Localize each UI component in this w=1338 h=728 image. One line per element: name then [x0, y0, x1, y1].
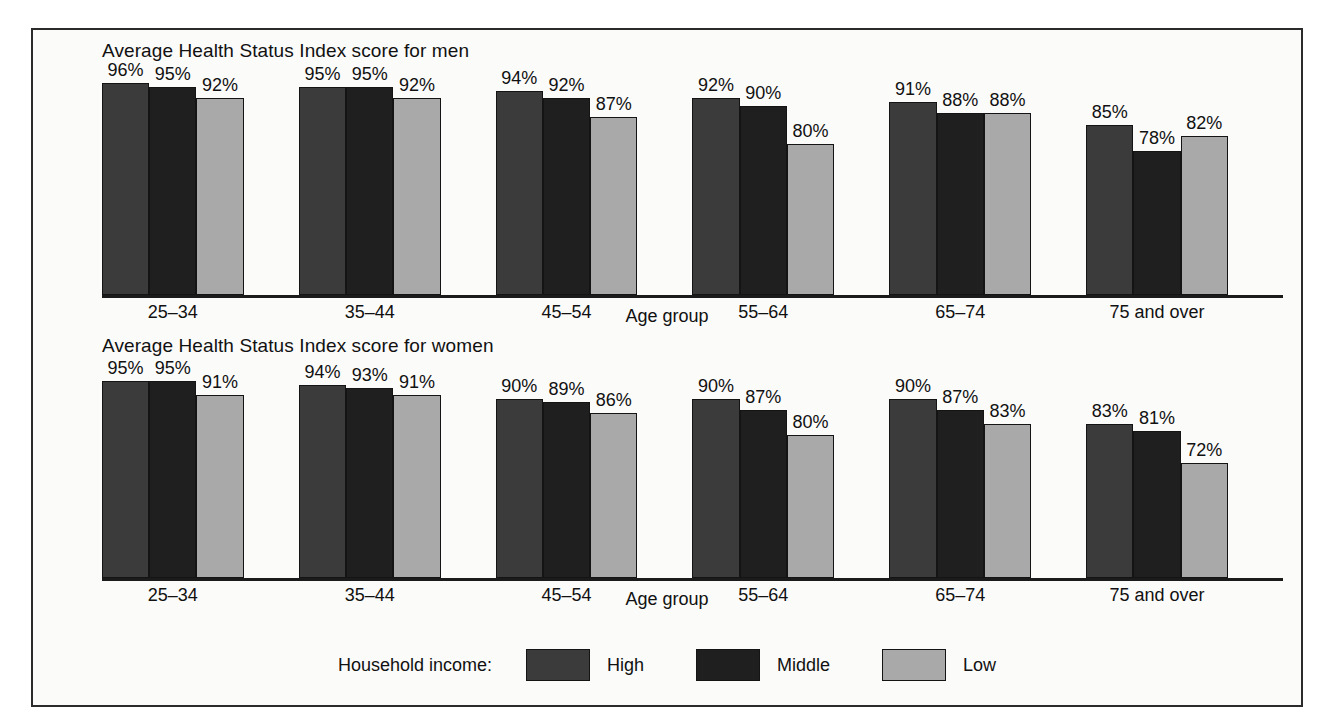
bar-group: 94%92%87%45–54: [496, 68, 693, 295]
bar-low[interactable]: [984, 113, 1031, 295]
bar-value-label: 83%: [989, 401, 1025, 422]
bar-high[interactable]: [496, 399, 543, 578]
bar-high[interactable]: [889, 399, 936, 578]
bar-group: 92%90%80%55–64: [692, 68, 889, 295]
bar-value-label: 90%: [745, 83, 781, 104]
bar-group-bars: 91%88%88%: [889, 68, 1031, 295]
bar-group: 90%87%80%55–64: [692, 363, 889, 578]
bar-value-label: 94%: [304, 362, 340, 383]
axis-title-women: Age group: [33, 589, 1301, 610]
bar-low[interactable]: [590, 117, 637, 295]
bar-middle[interactable]: [543, 98, 590, 295]
bar-value-label: 92%: [399, 75, 435, 96]
bar-group-bars: 96%95%92%: [102, 68, 244, 295]
bar-low[interactable]: [393, 98, 440, 295]
bar-middle[interactable]: [543, 402, 590, 578]
bar-high[interactable]: [102, 381, 149, 578]
bar-high[interactable]: [102, 83, 149, 295]
bar-middle[interactable]: [346, 388, 393, 578]
bar-middle[interactable]: [149, 87, 196, 295]
bar-wrapper: 94%: [299, 363, 346, 578]
bar-low[interactable]: [787, 144, 834, 295]
bar-high[interactable]: [1086, 125, 1133, 295]
bar-wrapper: 92%: [692, 68, 739, 295]
bar-wrapper: 95%: [149, 363, 196, 578]
bar-value-label: 87%: [745, 387, 781, 408]
bar-low[interactable]: [196, 395, 243, 578]
bar-high[interactable]: [692, 399, 739, 578]
bar-high[interactable]: [889, 102, 936, 295]
bar-middle[interactable]: [937, 410, 984, 578]
bar-wrapper: 89%: [543, 363, 590, 578]
bar-value-label: 95%: [155, 358, 191, 379]
legend-swatch-icon: [696, 649, 760, 681]
bar-wrapper: 95%: [346, 68, 393, 295]
bar-group: 85%78%82%75 and over: [1086, 68, 1283, 295]
bar-value-label: 85%: [1092, 102, 1128, 123]
legend-item-low[interactable]: Low: [882, 649, 996, 681]
bar-wrapper: 88%: [984, 68, 1031, 295]
bar-middle[interactable]: [740, 106, 787, 295]
bar-low[interactable]: [590, 413, 637, 578]
legend-item-high[interactable]: High: [526, 649, 644, 681]
bar-wrapper: 92%: [196, 68, 243, 295]
panel-women-title: Average Health Status Index score for wo…: [102, 335, 494, 357]
bar-group-bars: 95%95%91%: [102, 363, 244, 578]
bar-middle[interactable]: [1133, 151, 1180, 295]
bar-low[interactable]: [1181, 463, 1228, 578]
bar-value-label: 80%: [793, 121, 829, 142]
bar-wrapper: 78%: [1133, 68, 1180, 295]
legend-item-label: Middle: [777, 655, 830, 676]
bar-wrapper: 95%: [102, 363, 149, 578]
bar-group: 91%88%88%65–74: [889, 68, 1086, 295]
bar-high[interactable]: [1086, 424, 1133, 578]
bar-low[interactable]: [196, 98, 243, 295]
bar-wrapper: 92%: [393, 68, 440, 295]
bar-low[interactable]: [1181, 136, 1228, 295]
bar-high[interactable]: [496, 91, 543, 295]
bar-wrapper: 94%: [496, 68, 543, 295]
bar-value-label: 87%: [596, 94, 632, 115]
bar-value-label: 95%: [352, 64, 388, 85]
bar-wrapper: 95%: [299, 68, 346, 295]
bar-middle[interactable]: [346, 87, 393, 295]
bar-group: 90%87%83%65–74: [889, 363, 1086, 578]
bar-wrapper: 95%: [149, 68, 196, 295]
axis-baseline-women: [102, 578, 1283, 581]
bar-high[interactable]: [299, 87, 346, 295]
bar-group-bars: 95%95%92%: [299, 68, 441, 295]
bar-value-label: 87%: [942, 387, 978, 408]
bar-wrapper: 86%: [590, 363, 637, 578]
bar-wrapper: 91%: [196, 363, 243, 578]
bar-wrapper: 72%: [1181, 363, 1228, 578]
legend-item-middle[interactable]: Middle: [696, 649, 830, 681]
bar-group-bars: 90%89%86%: [496, 363, 638, 578]
bar-middle[interactable]: [937, 113, 984, 295]
bar-low[interactable]: [393, 395, 440, 578]
bar-wrapper: 96%: [102, 68, 149, 295]
bar-middle[interactable]: [149, 381, 196, 578]
bar-wrapper: 92%: [543, 68, 590, 295]
legend-title: Household income:: [338, 655, 492, 676]
bar-value-label: 96%: [108, 60, 144, 81]
bar-value-label: 90%: [895, 376, 931, 397]
bar-wrapper: 90%: [889, 363, 936, 578]
legend-swatch-icon: [882, 649, 946, 681]
bar-value-label: 81%: [1139, 408, 1175, 429]
bar-middle[interactable]: [740, 410, 787, 578]
bar-low[interactable]: [787, 435, 834, 578]
bar-high[interactable]: [692, 98, 739, 295]
bar-group-bars: 85%78%82%: [1086, 68, 1228, 295]
bar-wrapper: 80%: [787, 68, 834, 295]
bar-wrapper: 90%: [740, 68, 787, 295]
bar-value-label: 91%: [202, 372, 238, 393]
bar-group: 94%93%91%35–44: [299, 363, 496, 578]
bar-high[interactable]: [299, 385, 346, 579]
bar-value-label: 92%: [698, 75, 734, 96]
bar-middle[interactable]: [1133, 431, 1180, 578]
axis-title-men: Age group: [33, 306, 1301, 327]
axis-baseline-men: [102, 295, 1283, 298]
plot-area-men: 96%95%92%25–3495%95%92%35–4494%92%87%45–…: [102, 68, 1283, 298]
bar-low[interactable]: [984, 424, 1031, 578]
bar-group-bars: 90%87%80%: [692, 363, 834, 578]
